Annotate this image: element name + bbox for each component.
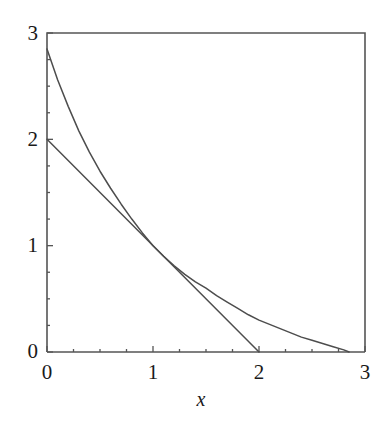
y-tick-label-1: 1 — [12, 235, 38, 256]
series-tangent-line — [47, 139, 259, 352]
y-tick-label-0: 0 — [12, 341, 38, 362]
y-tick-label-3: 3 — [12, 23, 38, 44]
axes-frame-path — [47, 33, 365, 352]
x-tick-label-3: 3 — [352, 362, 378, 383]
axes-frame — [47, 33, 365, 352]
x-tick-label-2: 2 — [246, 362, 272, 383]
data-series — [47, 49, 349, 352]
y-tick-label-2: 2 — [12, 129, 38, 150]
x-tick-label-0: 0 — [34, 362, 60, 383]
x-tick-label-1: 1 — [140, 362, 166, 383]
tick-marks — [47, 33, 365, 352]
figure-canvas: 3 2 1 0 0 1 2 3 x — [0, 0, 383, 427]
series-curve — [47, 49, 349, 352]
x-axis-title: x — [186, 388, 216, 411]
